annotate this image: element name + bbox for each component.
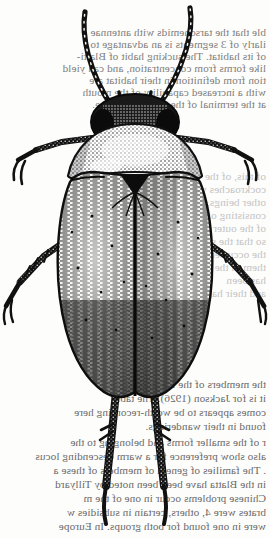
- scanned-page: ble that the tarsonemids with antennae i…: [0, 0, 270, 538]
- right-antenna: [157, 8, 191, 108]
- left-antenna: [84, 12, 113, 108]
- beetle-illustration: [0, 0, 270, 538]
- pronotum: [60, 120, 210, 180]
- right-elytron: [130, 168, 220, 410]
- left-elytron: [50, 168, 140, 410]
